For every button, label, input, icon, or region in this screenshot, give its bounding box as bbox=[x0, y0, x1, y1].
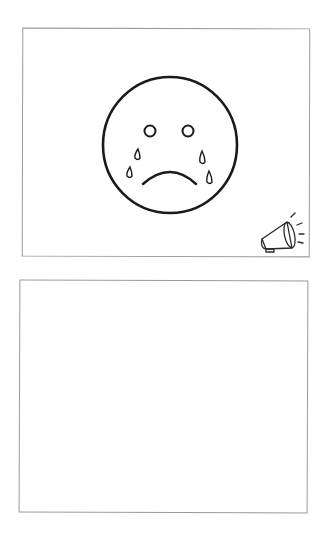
sad-face-icon bbox=[103, 77, 237, 213]
tear-icon bbox=[127, 167, 132, 178]
megaphone-icon bbox=[262, 213, 305, 252]
tear-icon bbox=[207, 171, 212, 184]
answer-box-caption: Empty answer box bbox=[20, 280, 21, 281]
tear-icon bbox=[200, 151, 205, 164]
answer-box[interactable]: Empty answer box bbox=[19, 279, 309, 513]
tear-icon bbox=[135, 149, 140, 160]
